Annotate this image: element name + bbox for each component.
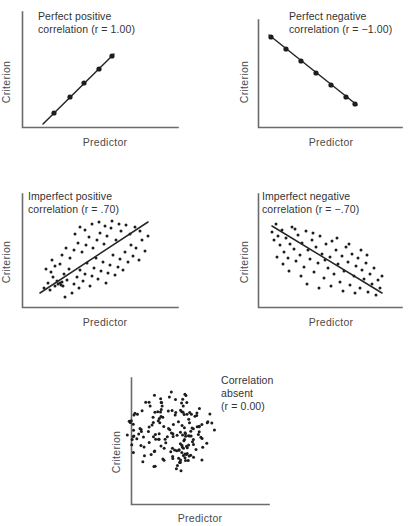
panel3-data-point [97, 278, 100, 281]
panel3-data-point [51, 259, 54, 262]
panel2-xlabel: Predictor [276, 136, 386, 148]
panel4-xlabel: Predictor [276, 316, 386, 328]
panel3-data-point [73, 283, 76, 286]
panel5-data-point [201, 446, 204, 449]
panel3-data-point [63, 273, 66, 276]
panel4-data-point [349, 284, 352, 287]
panel4-data-point [333, 273, 336, 276]
panel3-data-point [54, 265, 57, 268]
panel3-data-point [77, 242, 80, 245]
panel3-data-point [138, 259, 141, 262]
panel1-data-point [81, 80, 86, 85]
panel4-data-point [357, 257, 360, 260]
panel3-data-point [74, 233, 77, 236]
panel3-data-point [71, 292, 74, 295]
panel5-data-point [199, 436, 202, 439]
panel1-xlabel: Predictor [50, 136, 160, 148]
panel4-data-point [277, 235, 280, 238]
panel5-data-point [182, 404, 185, 407]
panel5-point-cloud [126, 391, 216, 473]
panel2-data-point [313, 70, 318, 75]
panel2-data-point [352, 101, 357, 106]
panel5-data-point [187, 418, 190, 421]
panel5-data-point [154, 465, 157, 468]
panel5-data-point [183, 456, 186, 459]
panel4-data-point [330, 285, 333, 288]
panel5-data-point [142, 436, 145, 439]
panel5-data-point [179, 461, 182, 464]
panel4-data-point [294, 228, 297, 231]
panel5-data-point [197, 433, 200, 436]
panel3-data-point [141, 239, 144, 242]
panel4-data-point [297, 234, 300, 237]
panel3-data-point [127, 261, 130, 264]
panel3-data-point [85, 244, 88, 247]
panel5-data-point [181, 434, 184, 437]
panel5-data-point [132, 435, 135, 438]
panel3-data-point [91, 275, 94, 278]
panel5-data-point [171, 457, 174, 460]
panel5-data-point [183, 426, 186, 429]
panel5-data-point [126, 433, 129, 436]
panel4-data-point [335, 249, 338, 252]
panel4-data-point [336, 237, 339, 240]
panel4-data-point [288, 270, 291, 273]
panel4-caption: Imperfect negative correlation (r = −.70… [262, 190, 410, 216]
panel4-data-point [377, 279, 380, 282]
panel4-data-point [371, 283, 374, 286]
panel3-ylabel: Criterion [0, 237, 12, 287]
panel5-data-point [192, 456, 195, 459]
panel4-data-point [359, 287, 362, 290]
panel4-data-point [331, 240, 334, 243]
panel3-data-point [100, 270, 103, 273]
panel5-data-point [213, 429, 216, 432]
panel5-data-point [195, 411, 198, 414]
panel3-data-point [61, 254, 64, 257]
panel4-data-point [271, 231, 274, 234]
panel5-data-point [180, 451, 183, 454]
panel5-data-point [168, 395, 171, 398]
panel3-data-point [139, 230, 142, 233]
panel5-data-point [156, 410, 159, 413]
panel3-data-point [112, 254, 115, 257]
panel1-data-point [96, 66, 101, 71]
panel4-data-point [347, 261, 350, 264]
panel4-data-point [295, 260, 298, 263]
panel3-data-point [84, 229, 87, 232]
panel3-data-point [65, 247, 68, 250]
panel3-data-point [73, 249, 76, 252]
panel5-data-point [176, 464, 179, 467]
panel5-data-point [172, 435, 175, 438]
panel3-data-point [147, 235, 150, 238]
panel1-series [43, 53, 115, 124]
panel5-data-point [160, 408, 163, 411]
panel3-data-point [115, 239, 118, 242]
panel5-data-point [190, 413, 193, 416]
panel5-data-point [143, 454, 146, 457]
panel5-caption: Correlation absent (r = 0.00) [221, 374, 313, 413]
panel5-data-point [158, 432, 161, 435]
panel5-data-point [177, 420, 180, 423]
panel4-data-point [363, 278, 366, 281]
panel4-data-point [339, 281, 342, 284]
panel5-data-point [183, 438, 186, 441]
panel2-ylabel: Criterion [238, 57, 250, 107]
panel3-data-point [107, 272, 110, 275]
panel1-caption: Perfect positive correlation (r = 1.00) [38, 10, 188, 36]
panel3-data-point [52, 276, 55, 279]
panel4-data-point [360, 249, 363, 252]
panel5-data-point [184, 394, 187, 397]
panel5-data-point [184, 431, 187, 434]
panel5-data-point [206, 420, 209, 423]
panel-imperfect-positive: Criterion Imperfect positive correlation… [0, 188, 200, 338]
panel3-data-point [102, 261, 105, 264]
panel4-data-point [293, 248, 296, 251]
panel5-data-point [181, 424, 184, 427]
panel5-data-point [132, 451, 135, 454]
panel5-data-point [186, 452, 189, 455]
panel3-data-point [47, 282, 50, 285]
panel3-data-point [96, 239, 99, 242]
panel5-data-point [166, 435, 169, 438]
panel5-data-point [130, 419, 133, 422]
panel3-data-point [64, 296, 67, 299]
